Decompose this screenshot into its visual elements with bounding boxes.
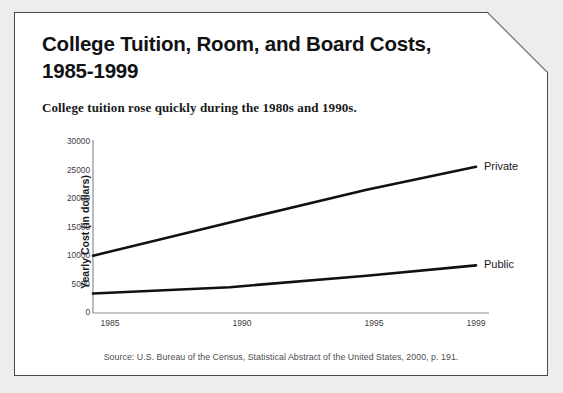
page-title-line-2: 1985-1999 xyxy=(42,57,472,84)
chart-subtitle: College tuition rose quickly during the … xyxy=(42,100,482,116)
page-title-line-1: College Tuition, Room, and Board Costs, xyxy=(42,30,472,57)
source-note: Source: U.S. Bureau of the Census, Stati… xyxy=(14,352,548,362)
page-title: College Tuition, Room, and Board Costs, … xyxy=(42,30,472,85)
